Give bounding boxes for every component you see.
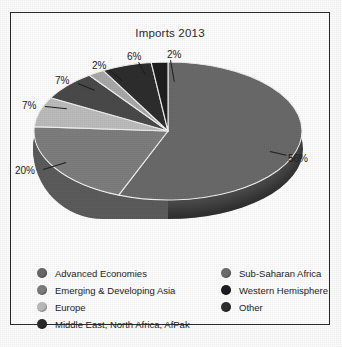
legend-item-middle-east-north-africa-afpak[interactable]: Middle East, North Africa, AfPak (37, 316, 190, 332)
legend-item-advanced-economies[interactable]: Advanced Economies (37, 265, 190, 281)
legend-item-label: Other (239, 302, 263, 313)
slice-label-sub-saharan-africa: 2% (92, 60, 106, 71)
chart-legend: Advanced EconomiesEmerging & Developing … (25, 265, 325, 327)
pie-top-face (33, 61, 303, 201)
slice-label-europe: 7% (22, 100, 36, 111)
legend-item-sub-saharan-africa[interactable]: Sub-Saharan Africa (221, 265, 328, 281)
chart-title: Imports 2013 (11, 27, 329, 39)
legend-swatch-icon (221, 268, 231, 278)
legend-column-right: Sub-Saharan AfricaWestern HemisphereOthe… (221, 265, 328, 316)
legend-item-label: Western Hemisphere (239, 285, 328, 296)
pie-slice-group (34, 62, 302, 200)
pie-stage (33, 53, 303, 228)
slice-label-western-hemisphere: 6% (127, 51, 141, 62)
legend-swatch-icon (37, 268, 47, 278)
legend-swatch-icon (221, 302, 231, 312)
slice-label-advanced-economies: 56% (288, 153, 308, 164)
legend-item-europe[interactable]: Europe (37, 299, 190, 315)
chart-frame: Imports 2013 56% 20% 7% 7% 2% (10, 12, 330, 325)
legend-item-other[interactable]: Other (221, 299, 328, 315)
figure-page: Imports 2013 56% 20% 7% 7% 2% (0, 0, 342, 347)
legend-item-label: Europe (55, 302, 86, 313)
legend-item-label: Middle East, North Africa, AfPak (55, 319, 190, 330)
legend-item-western-hemisphere[interactable]: Western Hemisphere (221, 282, 328, 298)
legend-item-emerging-developing-asia[interactable]: Emerging & Developing Asia (37, 282, 190, 298)
slice-label-other: 2% (167, 49, 181, 60)
legend-item-label: Advanced Economies (55, 268, 147, 279)
legend-swatch-icon (37, 302, 47, 312)
legend-swatch-icon (221, 285, 231, 295)
pie-slices-svg (33, 61, 303, 201)
legend-item-label: Sub-Saharan Africa (239, 268, 321, 279)
slice-label-middle-east-north-africa-afpak: 7% (55, 75, 69, 86)
legend-column-left: Advanced EconomiesEmerging & Developing … (37, 265, 190, 333)
slice-label-emerging-developing-asia: 20% (15, 165, 35, 176)
legend-swatch-icon (37, 285, 47, 295)
pie-plot-area: 56% 20% 7% 7% 2% 6% 2% (11, 47, 331, 252)
legend-item-label: Emerging & Developing Asia (55, 285, 175, 296)
legend-swatch-icon (37, 319, 47, 329)
caption-clipped (8, 336, 338, 347)
